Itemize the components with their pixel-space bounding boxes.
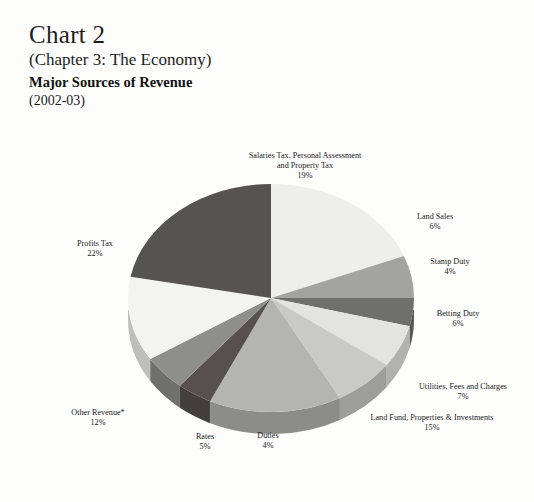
slice-label-percent: 19% [210, 171, 400, 181]
slice-label-percent: 15% [330, 423, 534, 433]
slice-label-rates: Rates 5% [175, 432, 235, 452]
slice-label-name: Land Fund, Properties & Investments [330, 413, 534, 423]
pie-chart-area: Salaries Tax, Personal Assessment and Pr… [0, 0, 534, 502]
slice-label-line2: and Property Tax [210, 161, 400, 171]
slice-label-stamp-duty: Stamp Duty 4% [400, 257, 500, 277]
slice-label-percent: 12% [40, 418, 156, 428]
slice-label-percent: 5% [175, 442, 235, 452]
slice-label-percent: 4% [400, 267, 500, 277]
slice-label-name: Rates [175, 432, 235, 442]
pie-chart-graphic: Salaries Tax, Personal Assessment and Pr… [108, 176, 434, 444]
slice-label-percent: 22% [40, 249, 150, 259]
slice-label-name: Profits Tax [40, 239, 150, 249]
slice-label-utilities-fees-charges: Utilities, Fees and Charges 7% [392, 382, 534, 402]
slice-label-land-sales: Land Sales 6% [390, 212, 480, 232]
slice-label-percent: 6% [390, 222, 480, 232]
slice-label-land-fund-properties-investments: Land Fund, Properties & Investments 15% [330, 413, 534, 433]
slice-label-percent: 7% [392, 392, 534, 402]
slice-label-salaries-tax: Salaries Tax, Personal Assessment and Pr… [210, 151, 400, 182]
slice-label-name: Other Revenue* [40, 408, 156, 418]
slice-label-name: Duties [238, 431, 298, 441]
document-page: Chart 2 (Chapter 3: The Economy) Major S… [0, 0, 534, 502]
slice-label-other-revenue: Other Revenue* 12% [40, 408, 156, 428]
slice-label-betting-duty: Betting Duty 6% [408, 309, 508, 329]
slice-label-percent: 4% [238, 441, 298, 451]
slice-label-name: Land Sales [390, 212, 480, 222]
pie-top-face: Salaries Tax, Personal Assessment and Pr… [128, 184, 414, 412]
slice-label-name: Utilities, Fees and Charges [392, 382, 534, 392]
slice-label-profits-tax: Profits Tax 22% [40, 239, 150, 259]
slice-label-duties: Duties 4% [238, 431, 298, 451]
slice-label-percent: 6% [408, 319, 508, 329]
slice-label-line1: Salaries Tax, Personal Assessment [210, 151, 400, 161]
slice-label-name: Betting Duty [408, 309, 508, 319]
slice-label-name: Stamp Duty [400, 257, 500, 267]
